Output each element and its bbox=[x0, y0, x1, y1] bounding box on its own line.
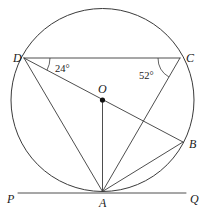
chord-a-b bbox=[103, 142, 184, 192]
vertex-label-c: C bbox=[186, 51, 195, 65]
vertex-label-o: O bbox=[98, 82, 107, 96]
vertex-label-d: D bbox=[12, 51, 22, 65]
vertex-label-q: Q bbox=[190, 192, 199, 206]
vertex-label-b: B bbox=[189, 137, 197, 151]
angle-arc-d bbox=[47, 58, 50, 70]
geometry-canvas: DCBAOPQ24°52° bbox=[0, 0, 207, 218]
chord-d-a bbox=[24, 58, 103, 192]
geometry-figure: DCBAOPQ24°52° bbox=[0, 0, 207, 218]
angle-arc-c bbox=[158, 58, 169, 77]
segment-group bbox=[18, 58, 186, 193]
vertex-label-p: P bbox=[6, 192, 15, 206]
angle-measure-label-c: 52° bbox=[139, 70, 154, 81]
angle-measure-label-d: 24° bbox=[55, 63, 70, 74]
vertex-label-a: A bbox=[98, 196, 107, 210]
center-point-dot bbox=[100, 97, 105, 102]
